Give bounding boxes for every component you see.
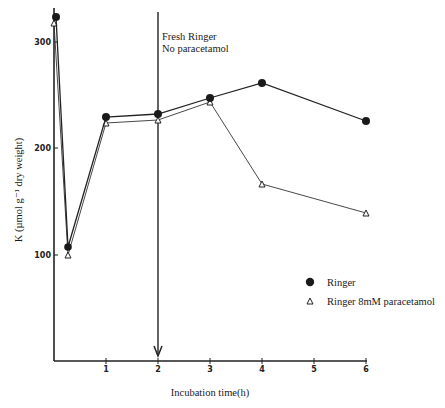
y-tick-100: 100 — [34, 251, 51, 260]
legend-ringer-label: Ringer — [327, 277, 356, 288]
x-axis-label: Incubation time(h) — [171, 387, 250, 399]
legend-filled-circle-icon — [306, 278, 314, 286]
x-tick-5: 5 — [311, 365, 317, 374]
x-tick-2: 2 — [155, 365, 161, 374]
legend: Ringer Ringer 8mM paracetamol — [306, 277, 435, 307]
series-paracetamol — [51, 20, 369, 258]
y-axis-label: K (µmol g⁻¹ dry weight) — [13, 137, 25, 242]
y-tick-200: 200 — [34, 144, 51, 153]
annotation-line-1: Fresh Ringer — [162, 31, 217, 42]
legend-paracetamol-label: Ringer 8mM paracetamol — [327, 296, 435, 307]
x-tick-1: 1 — [103, 365, 109, 374]
x-tick-3: 3 — [207, 365, 213, 374]
chart: 300 200 100 1 2 3 4 5 6 Incubation time(… — [0, 0, 445, 408]
x-tick-6: 6 — [363, 365, 369, 374]
triangle-markers — [51, 20, 369, 258]
legend-open-triangle-icon — [307, 298, 313, 304]
y-tick-300: 300 — [34, 38, 51, 47]
annotation-line-2: No paracetamol — [162, 43, 229, 54]
fresh-ringer-annotation: Fresh Ringer No paracetamol — [154, 12, 229, 356]
x-tick-4: 4 — [259, 365, 265, 374]
